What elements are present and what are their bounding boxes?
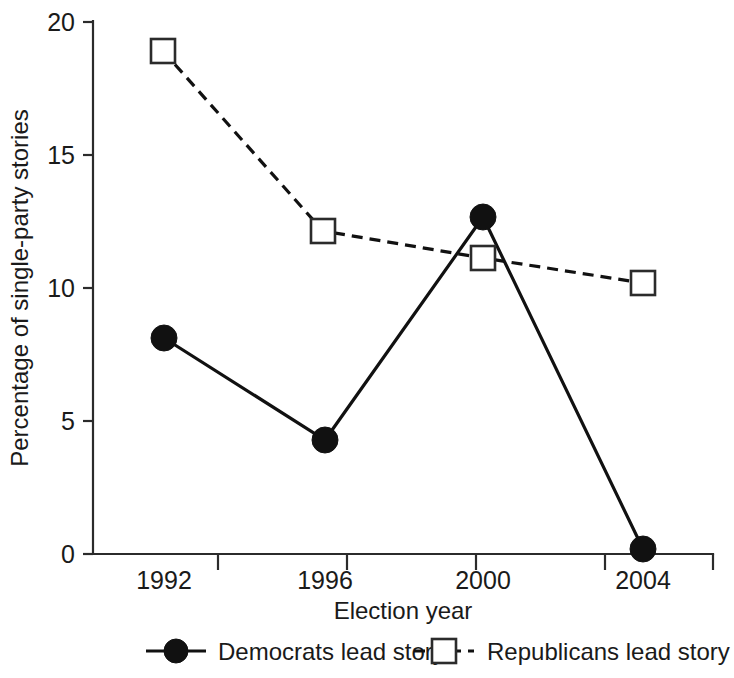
- line-chart-figure: 20 15 10 5 0 1992 1996 2000 2004 Electio…: [0, 0, 734, 678]
- x-tick-label-2000: 2000: [455, 566, 511, 594]
- y-tick-label-15: 15: [47, 141, 75, 169]
- series-line-democrats: [164, 217, 643, 549]
- open-square-icon: [432, 639, 456, 663]
- legend-label-republicans: Republicans lead story: [487, 638, 730, 665]
- x-tick-label-2004: 2004: [615, 566, 671, 594]
- y-tick-label-10: 10: [47, 274, 75, 302]
- data-point-democrats-1992: [151, 325, 177, 351]
- data-point-republicans-1996: [311, 219, 335, 243]
- legend-item-democrats[interactable]: Democrats lead story: [146, 638, 445, 665]
- y-axis-title: Percentage of single-party stories: [6, 109, 33, 467]
- chart-legend: Democrats lead story Republicans lead st…: [146, 638, 730, 665]
- x-tick-label-1996: 1996: [297, 566, 353, 594]
- x-axis-title: Election year: [334, 597, 473, 624]
- filled-circle-icon: [164, 639, 188, 663]
- data-point-democrats-2004: [630, 536, 656, 562]
- chart-plot-area: 20 15 10 5 0 1992 1996 2000 2004 Electio…: [0, 0, 734, 678]
- data-point-republicans-2000: [471, 246, 495, 270]
- series-line-republicans: [163, 51, 643, 283]
- legend-label-democrats: Democrats lead story: [218, 638, 445, 665]
- data-point-republicans-2004: [631, 271, 655, 295]
- data-point-republicans-1992: [151, 39, 175, 63]
- x-tick-label-1992: 1992: [136, 566, 192, 594]
- data-point-democrats-1996: [312, 427, 338, 453]
- y-tick-label-20: 20: [47, 8, 75, 36]
- data-point-democrats-2000: [470, 204, 496, 230]
- legend-item-republicans[interactable]: Republicans lead story: [414, 638, 730, 665]
- y-tick-label-5: 5: [61, 407, 75, 435]
- series-markers-democrats: [151, 204, 656, 562]
- series-markers-republicans: [151, 39, 655, 295]
- y-tick-label-0: 0: [61, 540, 75, 568]
- y-axis-ticks: [83, 22, 93, 554]
